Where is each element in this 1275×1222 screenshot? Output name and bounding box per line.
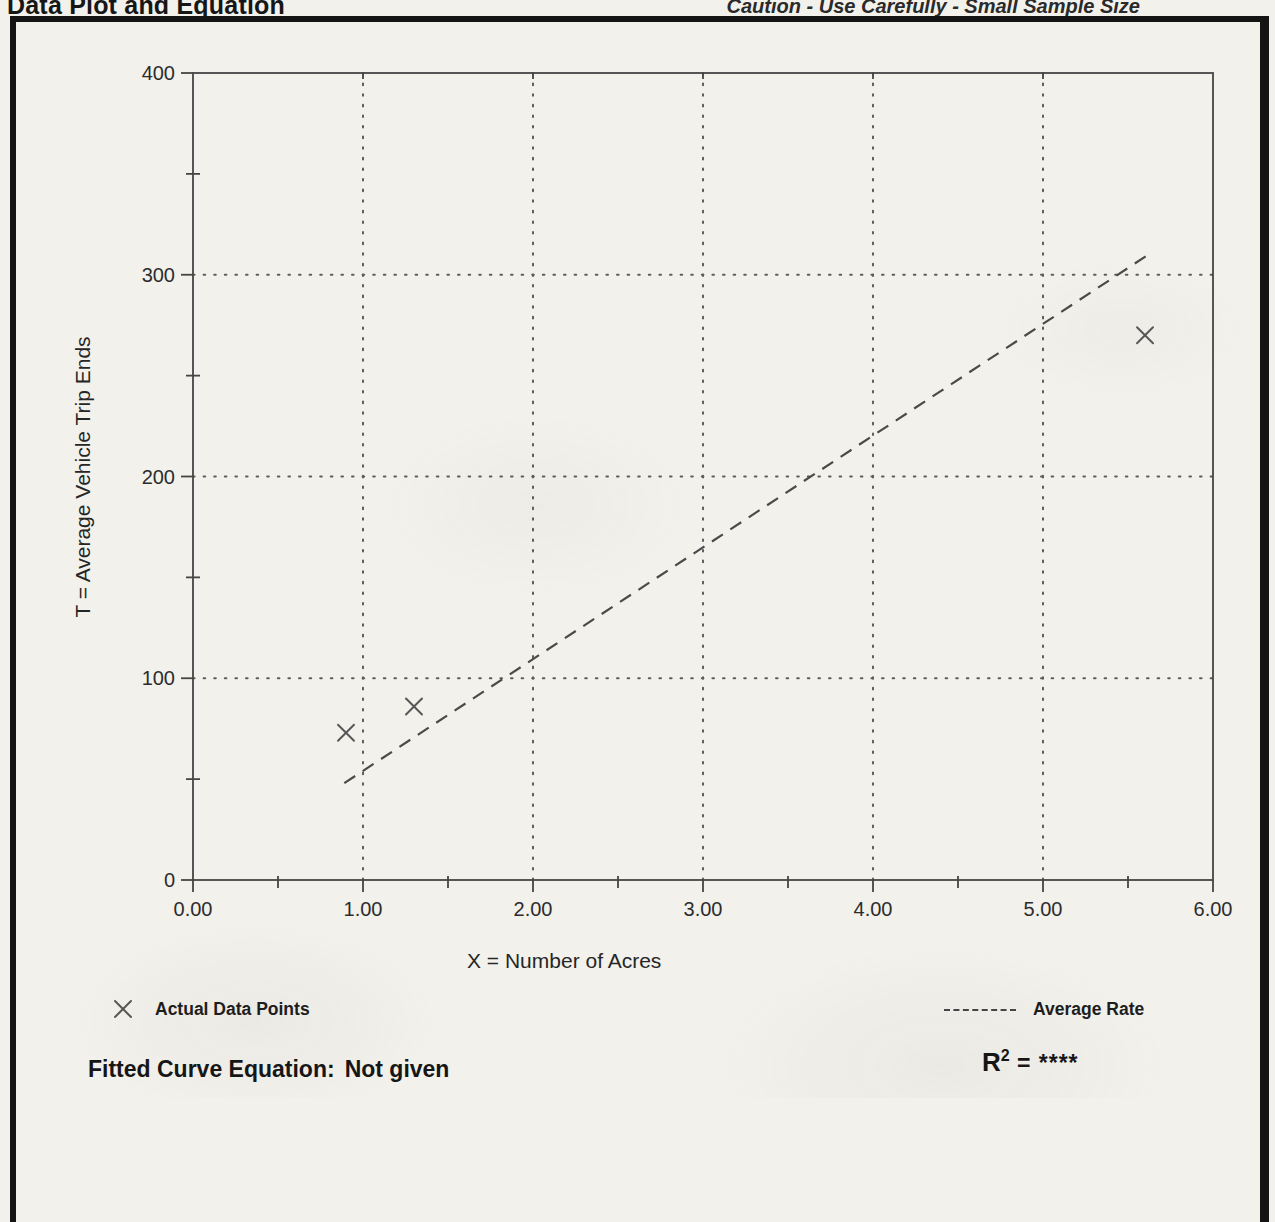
dashed-line-icon [944, 1009, 1016, 1011]
legend-average-rate-label: Average Rate [1033, 999, 1144, 1020]
r-squared-base: R [982, 1047, 1001, 1077]
x-tick-label-2.00: 2.00 [514, 898, 553, 920]
x-tick-label-4.00: 4.00 [854, 898, 893, 920]
y-axis-title: T = Average Vehicle Trip Ends [71, 336, 95, 617]
x-tick-label-1.00: 1.00 [344, 898, 383, 920]
average-rate-line [344, 255, 1148, 784]
fitted-curve-equation: Fitted Curve Equation:Not given [88, 1056, 449, 1083]
fitted-curve-equation-value: Not given [345, 1056, 450, 1082]
y-tick-label-400: 400 [142, 62, 175, 84]
r-squared-value: = **** [1017, 1050, 1079, 1076]
x-tick-label-3.00: 3.00 [684, 898, 723, 920]
r-squared: R2 = **** [982, 1047, 1079, 1078]
x-tick-label-0.00: 0.00 [174, 898, 213, 920]
r-squared-exponent: 2 [1001, 1047, 1010, 1064]
fitted-curve-equation-label: Fitted Curve Equation: [88, 1056, 335, 1082]
x-marker-icon [112, 998, 134, 1020]
legend-actual-data-points: Actual Data Points [112, 998, 310, 1020]
y-tick-label-200: 200 [142, 466, 175, 488]
x-tick-label-5.00: 5.00 [1024, 898, 1063, 920]
legend-average-rate: Average Rate [944, 999, 1144, 1020]
y-tick-label-100: 100 [142, 667, 175, 689]
x-tick-label-6.00: 6.00 [1194, 898, 1233, 920]
y-tick-label-0: 0 [164, 869, 175, 891]
y-tick-label-300: 300 [142, 264, 175, 286]
x-axis-title: X = Number of Acres [467, 949, 661, 973]
legend-actual-data-points-label: Actual Data Points [155, 999, 310, 1020]
